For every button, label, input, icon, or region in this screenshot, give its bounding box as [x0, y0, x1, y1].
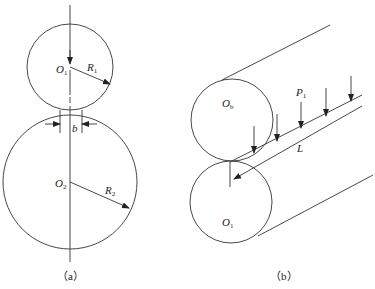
- figure-a: [3, 5, 137, 262]
- caption-a: （a）: [57, 270, 84, 282]
- label-b: b: [72, 122, 78, 134]
- label-o1-b: O1: [222, 216, 234, 230]
- caption-b: （b）: [270, 270, 298, 282]
- contact-line: [230, 95, 362, 162]
- label-p1: P1: [295, 86, 307, 100]
- roller-contact-diagram: O1 R1 b O2 R2 （a） Ob P1 L O1 （b）: [0, 0, 375, 289]
- label-ob: Ob: [222, 97, 234, 111]
- label-o2: O2: [55, 177, 67, 191]
- label-r1: R1: [86, 61, 98, 75]
- lower-roller-circle-b: [190, 161, 272, 243]
- upper-roller-circle-b: [191, 79, 273, 161]
- figure-b-labels: Ob P1 L O1 （b）: [222, 86, 307, 282]
- label-o1: O1: [56, 63, 68, 77]
- lower-cylinder-bottom-line: [258, 175, 373, 236]
- radius-r2-arrow-icon: [70, 182, 129, 208]
- figure-b: [190, 25, 373, 243]
- label-r2: R2: [104, 184, 116, 198]
- label-l: L: [296, 142, 303, 154]
- upper-cylinder-top-line: [222, 25, 330, 80]
